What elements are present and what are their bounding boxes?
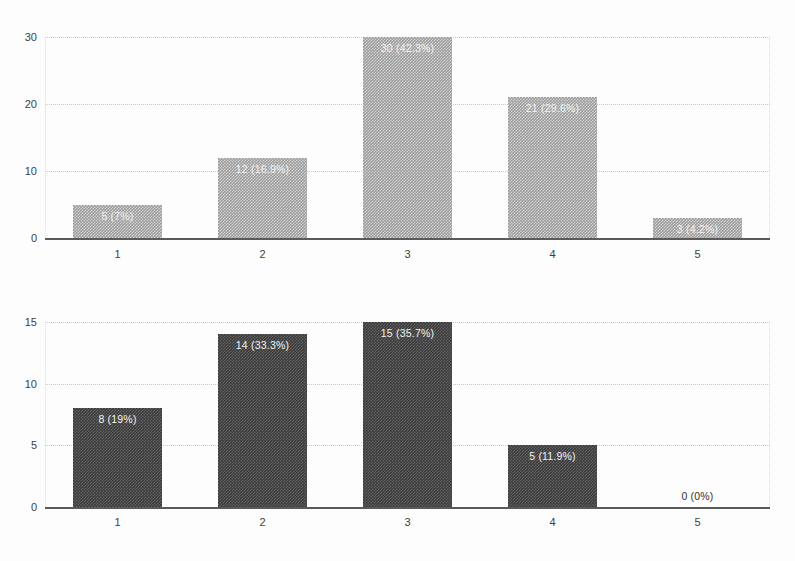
x-axis-tick-label: 5 [625,248,770,260]
bar-slot: 14 (33.3%) [190,322,335,507]
y-axis-tick-label: 30 [3,31,37,43]
bar-value-label: 5 (11.9%) [508,450,598,462]
y-axis-tick-label: 5 [3,439,37,451]
y-axis-tick-label: 20 [3,98,37,110]
x-axis-tick-label: 3 [335,248,480,260]
bar[interactable]: 30 (42.3%) [363,37,453,238]
x-axis-labels-bottom: 12345 [45,516,770,536]
y-axis-tick-label: 0 [3,232,37,244]
bar-slot: 15 (35.7%) [335,322,480,507]
bar[interactable]: 14 (33.3%) [218,334,308,507]
bar-slot: 3 (4.2%) [625,37,770,238]
x-axis-tick-label: 5 [625,516,770,528]
bar-value-label: 12 (16.9%) [218,163,308,175]
bar-slot: 5 (11.9%) [480,322,625,507]
bar[interactable]: 12 (16.9%) [218,158,308,238]
bar-slot: 21 (29.6%) [480,37,625,238]
bar-value-label: 3 (4.2%) [653,223,743,235]
plot-area-top: 5 (7%)12 (16.9%)30 (42.3%)21 (29.6%)3 (4… [45,37,770,238]
bar-value-label: 14 (33.3%) [218,339,308,351]
y-axis-tick-label: 15 [3,316,37,328]
bar-value-label: 30 (42.3%) [363,42,453,54]
bar[interactable]: 21 (29.6%) [508,97,598,238]
y-axis-tick-label: 10 [3,378,37,390]
x-axis-tick-label: 4 [480,516,625,528]
bar-value-label: 5 (7%) [73,210,163,222]
x-axis-labels-top: 12345 [45,248,770,268]
bar-slot: 5 (7%) [45,37,190,238]
bar-value-label: 0 (0%) [653,490,743,502]
bar[interactable]: 5 (7%) [73,205,163,239]
bar[interactable]: 8 (19%) [73,408,163,507]
bar-slot: 8 (19%) [45,322,190,507]
bar[interactable]: 5 (11.9%) [508,445,598,507]
x-axis-tick-label: 4 [480,248,625,260]
bar-value-label: 15 (35.7%) [363,327,453,339]
x-axis-tick-label: 2 [190,516,335,528]
x-axis-tick-label: 1 [45,516,190,528]
plot-area-bottom: 8 (19%)14 (33.3%)15 (35.7%)5 (11.9%)0 (0… [45,322,770,507]
x-axis-tick-label: 3 [335,516,480,528]
bar-slot: 30 (42.3%) [335,37,480,238]
bar-value-label: 8 (19%) [73,413,163,425]
x-axis-line-bottom [45,507,770,509]
x-axis-tick-label: 2 [190,248,335,260]
bar-value-label: 21 (29.6%) [508,102,598,114]
chart-page: 5 (7%)12 (16.9%)30 (42.3%)21 (29.6%)3 (4… [0,0,795,561]
bar-chart-bottom: 8 (19%)14 (33.3%)15 (35.7%)5 (11.9%)0 (0… [0,288,795,561]
bar-slot: 0 (0%) [625,322,770,507]
bars-group-top: 5 (7%)12 (16.9%)30 (42.3%)21 (29.6%)3 (4… [45,37,770,238]
y-axis-tick-label: 0 [3,501,37,513]
bar[interactable]: 3 (4.2%) [653,218,743,238]
y-axis-tick-label: 10 [3,165,37,177]
bar-chart-top: 5 (7%)12 (16.9%)30 (42.3%)21 (29.6%)3 (4… [0,0,795,280]
bars-group-bottom: 8 (19%)14 (33.3%)15 (35.7%)5 (11.9%)0 (0… [45,322,770,507]
bar[interactable]: 15 (35.7%) [363,322,453,507]
bar-slot: 12 (16.9%) [190,37,335,238]
x-axis-line-top [45,238,770,240]
x-axis-tick-label: 1 [45,248,190,260]
